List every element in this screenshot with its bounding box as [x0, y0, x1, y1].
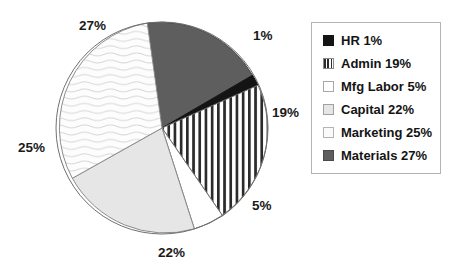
legend-label-materials: Materials 27%: [341, 149, 427, 162]
legend-swatch-mfg-labor: [323, 81, 334, 92]
legend-label-mfg-labor: Mfg Labor 5%: [341, 80, 426, 93]
legend-swatch-hr: [323, 35, 334, 46]
legend-item-capital: Capital 22%: [312, 98, 440, 121]
legend-label-capital: Capital 22%: [341, 103, 414, 116]
legend-swatch-admin: [323, 58, 334, 69]
pie-label-hr: 1%: [253, 28, 273, 43]
legend-swatch-marketing: [323, 127, 334, 138]
legend-swatch-materials: [323, 150, 334, 161]
legend-item-marketing: Marketing 25%: [312, 121, 440, 144]
pie-label-materials: 27%: [79, 18, 106, 33]
legend-label-admin: Admin 19%: [341, 57, 411, 70]
pie-chart-figure: 27% 1% 19% 5% 22% 25% HR 1% Admin 19% Mf…: [0, 0, 460, 274]
pie-label-marketing: 25%: [18, 140, 45, 155]
legend-item-hr: HR 1%: [312, 29, 440, 52]
legend-label-hr: HR 1%: [341, 34, 382, 47]
legend-swatch-capital: [323, 104, 334, 115]
legend-item-materials: Materials 27%: [312, 144, 440, 167]
pie-label-capital: 22%: [158, 245, 185, 260]
legend-label-marketing: Marketing 25%: [341, 126, 432, 139]
legend-item-mfg-labor: Mfg Labor 5%: [312, 75, 440, 98]
chart-legend: HR 1% Admin 19% Mfg Labor 5% Capital 22%…: [311, 22, 441, 174]
pie-label-mfg-labor: 5%: [252, 198, 272, 213]
legend-item-admin: Admin 19%: [312, 52, 440, 75]
pie-label-admin: 19%: [272, 105, 299, 120]
